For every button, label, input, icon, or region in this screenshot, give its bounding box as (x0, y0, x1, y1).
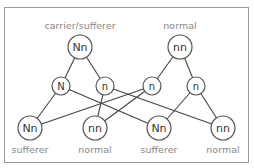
genotype-node: nn (211, 116, 235, 140)
parent-label: normal (163, 20, 196, 31)
node-text: nn (173, 41, 187, 54)
genetic-cross-diagram: NnnnNnnnNnnnNnnn carrier/sufferernormals… (0, 0, 254, 168)
node-text: N (57, 81, 64, 92)
node-text: n (193, 81, 199, 92)
offspring-label: normal (78, 144, 111, 155)
node-text: n (102, 81, 108, 92)
nodes: NnnnNnnnNnnnNnnn (18, 35, 235, 140)
parent-label: carrier/sufferer (44, 20, 115, 31)
gamete-node: n (187, 77, 205, 95)
node-text: Nn (22, 122, 37, 135)
offspring-label: sufferer (141, 144, 178, 155)
gamete-node: n (143, 77, 161, 95)
node-text: Nn (151, 122, 166, 135)
genotype-node: nn (168, 35, 192, 59)
node-text: n (149, 81, 155, 92)
genotype-node: Nn (147, 116, 171, 140)
offspring-label: normal (206, 144, 239, 155)
genotype-node: Nn (68, 35, 92, 59)
node-text: nn (88, 122, 102, 135)
gamete-node: n (96, 77, 114, 95)
genotype-node: Nn (18, 116, 42, 140)
genotype-node: nn (83, 116, 107, 140)
gamete-node: N (52, 77, 70, 95)
node-text: nn (216, 122, 230, 135)
offspring-label: sufferer (12, 144, 49, 155)
node-text: Nn (72, 41, 87, 54)
